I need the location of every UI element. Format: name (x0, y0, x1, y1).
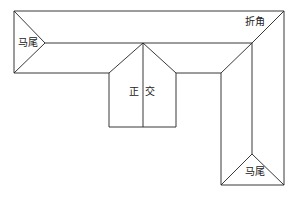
label-horse-tail-bottom: 马尾 (245, 167, 265, 177)
corner-hip-line (221, 43, 252, 73)
gable-line-left (109, 43, 143, 73)
label-horse-tail-left: 马尾 (18, 38, 38, 48)
gable-line-right (143, 43, 176, 73)
label-orthogonal-right: 交 (145, 87, 155, 97)
roof-outline (14, 11, 284, 185)
label-corner: 折角 (245, 17, 265, 27)
label-orthogonal-left: 正 (129, 87, 139, 97)
